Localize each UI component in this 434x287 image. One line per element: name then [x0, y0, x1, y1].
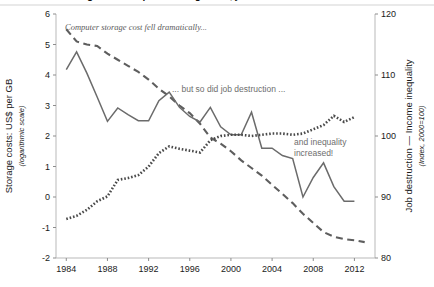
y-tick-label-left: 3: [45, 101, 50, 111]
y-tick-label-right: 110: [381, 70, 395, 80]
x-tick-label: 2008: [303, 264, 323, 274]
y-tick-label-left: 1: [45, 162, 50, 172]
axis-title-left: Storage costs: US$ per GB: [3, 79, 14, 194]
annotation-storage-cost: Computer storage cost fell dramatically.…: [65, 22, 207, 32]
chart-figure: -2-1012345680901001101201984198819921996…: [0, 0, 434, 287]
x-tick-label: 2000: [221, 264, 241, 274]
axis-subtitle-right: (Index, 2000=100): [417, 105, 426, 167]
y-tick-label-right: 100: [381, 131, 396, 141]
x-tick-label: 2004: [262, 264, 282, 274]
series-line-1: [66, 52, 354, 201]
y-tick-label-right: 80: [381, 253, 391, 263]
annotation-inequality-line2: increased!: [294, 148, 333, 158]
annotation-job-destruction: ... but so did job destruction ...: [172, 84, 285, 94]
x-tick-label: 1988: [97, 264, 117, 274]
y-tick-label-right: 120: [381, 9, 396, 19]
axis-title-right: Job destruction — Income inequality: [403, 59, 414, 212]
series-line-0: [66, 29, 364, 242]
y-tick-label-left: -1: [42, 223, 50, 233]
axis-subtitle-left: (logarithmic scale): [17, 105, 26, 166]
annotation-inequality-line1: and inequality: [294, 137, 347, 147]
x-tick-label: 1984: [56, 264, 76, 274]
series-line-2: [66, 116, 354, 219]
y-tick-label-right: 90: [381, 192, 391, 202]
x-tick-label: 2012: [344, 264, 364, 274]
x-tick-label: 1996: [180, 264, 200, 274]
y-tick-label-left: -2: [42, 253, 50, 263]
y-tick-label-left: 0: [45, 192, 50, 202]
y-tick-label-left: 2: [45, 131, 50, 141]
page-title-cropped: Cost of data storage and computer storag…: [2, 0, 308, 1]
y-tick-label-left: 4: [45, 70, 50, 80]
y-tick-label-left: 6: [45, 9, 50, 19]
y-tick-label-left: 5: [45, 40, 50, 50]
x-tick-label: 1992: [139, 264, 159, 274]
